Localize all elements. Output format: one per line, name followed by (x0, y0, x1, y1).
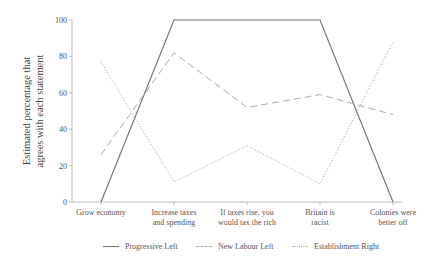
x-tick-label: Increase taxes (151, 208, 196, 217)
x-tick-label: better off (378, 218, 408, 227)
y-tick-label: 20 (59, 162, 67, 171)
legend-label: Progressive Left (125, 242, 178, 251)
dashed-line-swatch-icon (196, 246, 212, 248)
series-line-establishment-right (101, 42, 393, 184)
line-chart: 020406080100Grow economyIncrease taxesan… (0, 0, 439, 240)
legend-label: Establishment Right (314, 242, 379, 251)
y-tick-label: 0 (63, 198, 67, 207)
chart-legend: Progressive LeftNew Labour LeftEstablish… (0, 242, 439, 258)
svg-text:Estimated percentage that: Estimated percentage that (21, 57, 32, 166)
y-tick-label: 100 (55, 16, 67, 25)
x-tick-label: racist (311, 218, 329, 227)
series-line-new-labour-left (101, 53, 393, 155)
y-tick-label: 60 (59, 89, 67, 98)
legend-label: New Labour Left (218, 242, 274, 251)
legend-item: New Labour Left (196, 242, 274, 251)
x-tick-label: If taxes rise, you (220, 208, 273, 217)
x-tick-label: and spending (153, 218, 195, 227)
dotted-line-swatch-icon (292, 246, 308, 248)
y-axis-label: Estimated percentage thatagrees with eac… (21, 55, 45, 168)
chart-container: 020406080100Grow economyIncrease taxesan… (0, 0, 439, 268)
solid-line-swatch-icon (103, 246, 119, 248)
svg-text:agrees with each statement: agrees with each statement (34, 55, 45, 168)
x-tick-label: would tax the rich (218, 218, 276, 227)
y-tick-label: 40 (59, 125, 67, 134)
y-tick-label: 80 (59, 52, 67, 61)
x-tick-label: Grow economy (76, 208, 126, 217)
legend-item: Progressive Left (103, 242, 178, 251)
legend-item: Establishment Right (292, 242, 379, 251)
x-tick-label: Colonies were (370, 208, 416, 217)
series-line-progressive-left (101, 20, 393, 202)
x-tick-label: Britain is (305, 208, 335, 217)
